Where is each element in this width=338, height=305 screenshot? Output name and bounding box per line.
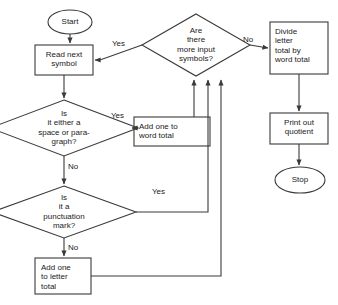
edge-label-no-punct-test: No [68, 243, 78, 252]
node-add-letter-label: Add one to letter total [41, 263, 93, 291]
node-space-test-label: Is it either a space or para- graph? [19, 109, 109, 146]
edge-label-yes-space-test: Yes [111, 111, 124, 120]
node-read-label: Read next symbol [35, 50, 93, 69]
node-print-label: Print out quotient [270, 118, 328, 137]
edge-more-input-no-to-divide [250, 45, 268, 48]
edge-label-no-space-test: No [68, 162, 78, 171]
node-divide-label: Divide letter total by word total [275, 27, 329, 64]
flowchart-canvas: Start Read next symbol Is it either a sp… [0, 0, 338, 305]
edge-label-yes-more-input: Yes [112, 39, 125, 48]
node-start-label: Start [48, 17, 92, 26]
node-punct-test-label: Is it a punctuation mark? [22, 193, 106, 230]
edge-add-letter-to-more-input [91, 80, 221, 276]
edge-label-no-more-input: No [243, 35, 253, 44]
node-more-input-label: Are there more input symbols? [152, 26, 240, 63]
edge-label-yes-punct-test: Yes [152, 187, 165, 196]
node-stop-label: Stop [278, 175, 322, 184]
node-add-word-label: Add one to word total [139, 122, 209, 141]
